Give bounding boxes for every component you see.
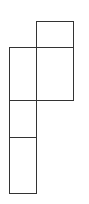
- diagram-canvas: [0, 0, 89, 204]
- rect-left-middle: [9, 100, 37, 138]
- rect-top-right-small: [36, 21, 74, 48]
- rect-left-bottom: [9, 137, 37, 194]
- rect-right-large: [36, 47, 74, 101]
- rect-left-upper: [9, 47, 37, 101]
